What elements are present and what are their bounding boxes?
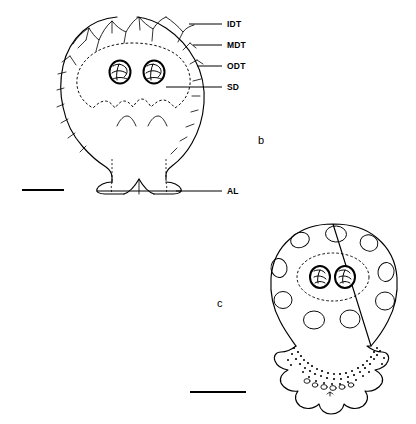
panel-c-drawing [270, 224, 397, 414]
panel-b-stoma-left [110, 61, 131, 84]
panel-c-basal-vesicles [304, 379, 354, 396]
annotation-label-al: AL [227, 186, 239, 196]
panel-letter-b: b [258, 134, 264, 146]
panel-b-trichomes-upper-left [57, 17, 153, 90]
panel-letter-c: c [217, 297, 223, 309]
panel-c-pit [304, 311, 325, 329]
panel-c-subsidiary-dome [297, 253, 369, 301]
annotation-leaders [166, 24, 222, 191]
panel-b-chevron-marks [117, 116, 167, 126]
panel-letters: b c [217, 134, 264, 309]
annotation-label-sd: SD [227, 82, 239, 92]
panel-c-stoma-left [310, 266, 330, 288]
panel-c-stipple-band [287, 347, 385, 385]
panel-b-drawing [57, 17, 204, 194]
figure-plate: IDT MDT ODT SD AL b c [0, 0, 416, 424]
panel-b-trichomes-lower [57, 104, 198, 154]
panel-c-stoma-right [335, 266, 355, 288]
annotation-label-odt: ODT [227, 61, 246, 71]
panel-b-stoma-right [144, 61, 165, 84]
scale-bars [22, 190, 246, 392]
panel-c-pit [340, 310, 360, 328]
panel-b-stomata-group [110, 61, 165, 84]
annotation-label-idt: IDT [227, 19, 242, 29]
panel-b-basal-lobes [97, 179, 181, 194]
panel-c-pit [376, 261, 395, 282]
panel-c-stomata-group [310, 266, 355, 288]
panel-c-pit [376, 292, 395, 310]
panel-c-pit [274, 292, 292, 309]
panel-c-pit [289, 230, 312, 250]
annotation-label-mdt: MDT [227, 40, 247, 50]
figure-canvas: IDT MDT ODT SD AL b c [0, 0, 416, 424]
panel-c-pit [358, 232, 381, 254]
annotation-labels: IDT MDT ODT SD AL [227, 19, 247, 196]
panel-b-subsidiary-dome [77, 43, 190, 108]
